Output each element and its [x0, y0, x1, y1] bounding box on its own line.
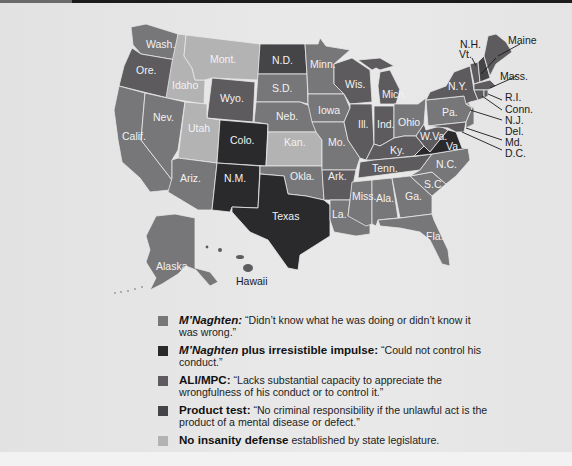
label-va: Va.: [446, 140, 461, 152]
label-ala: Ala.: [376, 192, 394, 204]
label-hawaii: Hawaii: [236, 275, 268, 287]
aleutian-islands: [114, 286, 143, 294]
label-nm: N.M.: [224, 172, 246, 184]
label-ri: R.I.: [505, 91, 521, 103]
legend-swatch-product-test: [158, 406, 168, 416]
state-nm[interactable]: [212, 163, 260, 212]
label-ky: Ky.: [390, 144, 404, 156]
legend: M’Naghten: “Didn’t know what he was doin…: [158, 314, 488, 452]
label-ore: Ore.: [136, 64, 156, 76]
label-wis: Wis.: [345, 78, 365, 90]
label-minn: Minn.: [310, 58, 336, 70]
label-nev: Nev.: [153, 111, 174, 123]
label-mo: Mo.: [328, 136, 346, 148]
legend-item-mnaghten: M’Naghten: “Didn’t know what he was doin…: [158, 314, 488, 338]
state-ariz[interactable]: [168, 158, 217, 210]
label-wva: W.Va.: [420, 130, 447, 142]
label-maine: Maine: [508, 34, 537, 46]
legend-text: Product test: “No criminal responsibilit…: [179, 404, 488, 428]
label-ariz: Ariz.: [180, 172, 201, 184]
legend-term: ALI/MPC:: [179, 373, 231, 386]
label-nc: N.C.: [436, 158, 457, 170]
label-dc: D.C.: [505, 147, 526, 159]
label-utah: Utah: [188, 122, 210, 134]
label-kan: Kan.: [284, 136, 306, 148]
label-fla: Fla.: [426, 230, 444, 242]
label-idaho: Idaho: [172, 79, 198, 91]
label-sc: S.C.: [424, 178, 444, 190]
state-alaska[interactable]: [146, 214, 218, 290]
legend-term: Product test:: [179, 403, 251, 416]
label-calif: Calif.: [122, 130, 146, 142]
label-pa: Pa.: [442, 106, 458, 118]
legend-term: M’Naghten:: [179, 313, 242, 326]
label-texas: Texas: [272, 210, 299, 222]
label-alaska: Alaska: [156, 260, 188, 272]
label-mont: Mont.: [210, 53, 236, 65]
legend-description: established by state legislature.: [289, 434, 440, 446]
label-ill: Ill.: [358, 118, 369, 130]
label-nh: N.H.: [460, 38, 481, 50]
legend-text: M’Naghten plus irresistible impulse: “Co…: [179, 344, 488, 368]
label-nd: N.D.: [272, 54, 293, 66]
state-ri[interactable]: [484, 90, 488, 98]
label-ark: Ark.: [328, 170, 347, 182]
label-neb: Neb.: [276, 110, 298, 122]
label-ny: N.Y.: [448, 80, 467, 92]
label-mich: Mich.: [382, 88, 407, 100]
label-miss: Miss.: [352, 190, 377, 202]
label-ohio: Ohio: [398, 116, 420, 128]
label-wash: Wash.: [146, 38, 175, 50]
legend-swatch-mnaghten-irresistible: [158, 346, 168, 356]
legend-text: No insanity defense established by state…: [179, 434, 439, 446]
label-tenn: Tenn.: [372, 162, 398, 174]
legend-term: M’Naghten: [179, 343, 238, 356]
legend-text: M’Naghten: “Didn’t know what he was doin…: [179, 314, 488, 338]
legend-swatch-ali-mpc: [158, 376, 168, 386]
legend-swatch-mnaghten: [158, 316, 168, 326]
state-hawaii[interactable]: [206, 246, 253, 272]
label-mass: Mass.: [500, 70, 528, 82]
label-sd: S.D.: [272, 82, 292, 94]
legend-term-suffix: plus irresistible impulse:: [238, 343, 378, 356]
legend-swatch-no-defense: [158, 436, 168, 446]
legend-item-ali-mpc: ALI/MPC: “Lacks substantial capacity to …: [158, 374, 488, 398]
label-okla: Okla.: [290, 170, 315, 182]
label-colo: Colo.: [230, 134, 255, 146]
label-wyo: Wyo.: [220, 92, 244, 104]
legend-text: ALI/MPC: “Lacks substantial capacity to …: [179, 374, 488, 398]
bottom-strip: [0, 452, 572, 466]
label-ga: Ga.: [405, 190, 422, 202]
label-iowa: Iowa: [318, 104, 340, 116]
legend-item-product-test: Product test: “No criminal responsibilit…: [158, 404, 488, 428]
us-insanity-defense-map: Wash. Ore. Calif. Idaho Nev. Mont. Wyo. …: [0, 0, 572, 300]
legend-item-mnaghten-irresistible: M’Naghten plus irresistible impulse: “Co…: [158, 344, 488, 368]
legend-term: No insanity defense: [179, 433, 289, 446]
label-la: La.: [332, 208, 347, 220]
legend-item-no-defense: No insanity defense established by state…: [158, 434, 488, 446]
label-ind: Ind.: [377, 118, 395, 130]
